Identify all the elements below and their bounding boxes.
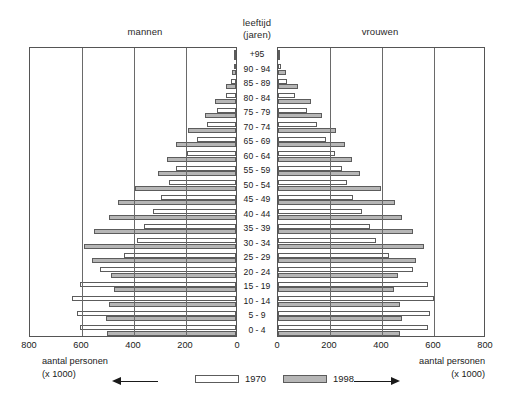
plot-area-women [277,47,485,337]
bar-row [30,63,236,78]
bar-1970-20-24 [100,267,237,272]
bar-1998-20-24 [111,273,236,278]
bar-row [278,135,484,150]
bar-1970-55-59 [278,166,342,171]
bar-1998-5-9 [106,316,236,321]
plot-area-men [29,47,237,337]
legend-item-1998: 1998 [283,372,373,388]
bar-1970-80-84 [278,93,295,98]
tick-label-200: 200 [165,340,205,350]
bar-1970-0-4 [80,325,236,330]
age-label-80-84: 80 - 84 [237,91,277,106]
bar-rows-men [30,48,236,336]
tick-label-400: 400 [113,340,153,350]
bar-row [278,193,484,208]
axis-label-men: aantal personen (x 1000) [42,355,108,380]
bar-row [278,63,484,78]
axis-label-women: aantal personen (x 1000) [387,355,485,380]
bar-1998-80-84 [215,99,236,104]
bar-1998-45-49 [118,200,236,205]
bar-row [30,179,236,194]
bar-1998-40-44 [109,215,236,220]
bar-1998-85-89 [278,84,298,89]
bar-row [30,237,236,252]
axis-label-women-line1: aantal personen [387,355,485,368]
bar-1998-+95 [278,55,280,60]
bar-1970-75-79 [217,108,236,113]
tick-label-800: 800 [9,340,49,350]
bar-row [30,106,236,121]
axis-label-men-line1: aantal personen [42,355,108,368]
bar-1998-15-19 [278,287,394,292]
bar-row [278,237,484,252]
bar-1998-20-24 [278,273,398,278]
bar-1970-50-54 [169,180,236,185]
age-label-90-94: 90 - 94 [237,62,277,77]
arrow-left-icon [112,377,158,386]
bar-row [278,295,484,310]
bar-row [278,222,484,237]
age-label-55-59: 55 - 59 [237,163,277,178]
age-label-85-89: 85 - 89 [237,76,277,91]
bar-1970-85-89 [231,79,236,84]
bar-row [278,266,484,281]
age-label-60-64: 60 - 64 [237,149,277,164]
bar-1970-5-9 [77,311,236,316]
bar-1998-55-59 [158,171,236,176]
bar-row [278,92,484,107]
age-label-column: +9590 - 9485 - 8980 - 8475 - 7970 - 7465… [237,47,277,337]
bar-1998-25-29 [278,258,416,263]
bar-1998-30-34 [278,244,424,249]
bar-1998-60-64 [167,157,236,162]
bar-row [30,135,236,150]
bar-1970-60-64 [187,151,236,156]
bar-row [30,92,236,107]
bar-row [30,48,236,63]
arrow-right-head [391,377,400,385]
age-label-35-39: 35 - 39 [237,221,277,236]
tick-label-600: 600 [61,340,101,350]
tick-label-200: 200 [309,340,349,350]
bar-1970-35-39 [144,224,236,229]
bar-row [30,251,236,266]
axis-title-age: leeftijd (jaren) [228,17,286,40]
bar-1998-45-49 [278,200,395,205]
bar-row [278,77,484,92]
bar-1970-80-84 [226,93,236,98]
bar-1970-45-49 [161,195,236,200]
bar-1970-60-64 [278,151,335,156]
bar-1998-55-59 [278,171,360,176]
axis-title-age-line1: leeftijd [228,17,286,29]
bar-row [30,309,236,324]
age-label-30-34: 30 - 34 [237,236,277,251]
bar-row [278,121,484,136]
bar-row [278,208,484,223]
bar-row [30,222,236,237]
bar-row [30,208,236,223]
bar-row [30,280,236,295]
bar-row [30,164,236,179]
bar-1998-75-79 [205,113,236,118]
age-label-5-9: 5 - 9 [237,308,277,323]
age-label-0-4: 0 - 4 [237,323,277,338]
arrow-left-shaft [120,381,158,382]
age-label-25-29: 25 - 29 [237,250,277,265]
axis-title-age-line2: (jaren) [228,29,286,41]
age-label-65-69: 65 - 69 [237,134,277,149]
bar-1970-70-74 [207,122,236,127]
bar-1998-15-19 [114,287,236,292]
bar-1998-80-84 [278,99,311,104]
age-label-70-74: 70 - 74 [237,120,277,135]
gridline-200 [186,48,187,336]
bar-1998-90-94 [232,70,236,75]
bar-1970-30-34 [278,238,376,243]
bar-1970-75-79 [278,108,307,113]
legend: 1970 1998 [195,372,345,388]
bar-1970-70-74 [278,122,317,127]
axis-label-women-line2: (x 1000) [387,368,485,381]
axis-label-men-line2: (x 1000) [42,368,108,381]
tick-label-800: 800 [465,340,505,350]
age-label-40-44: 40 - 44 [237,207,277,222]
bar-1998-35-39 [278,229,413,234]
age-label-15-19: 15 - 19 [237,279,277,294]
